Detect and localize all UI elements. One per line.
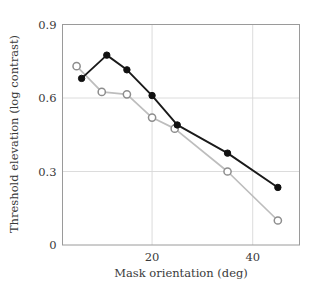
x-axis-title: Mask orientation (deg)	[114, 266, 248, 280]
data-point	[124, 67, 130, 73]
data-point	[275, 184, 281, 190]
x-tick-label: 40	[245, 250, 260, 264]
data-point	[224, 168, 231, 175]
y-tick-label: 0.6	[38, 91, 56, 105]
data-point	[123, 91, 130, 98]
data-point	[98, 88, 105, 95]
y-tick-label: 0	[49, 238, 56, 252]
data-point	[274, 217, 281, 224]
threshold-elevation-line-chart: 00.30.60.9 2040 Mask orientation (deg) T…	[0, 0, 316, 288]
data-point	[174, 122, 180, 128]
data-point	[148, 114, 155, 121]
y-axis-title: Threshold elevation (log contrast)	[7, 35, 21, 233]
data-point	[73, 63, 80, 70]
data-point	[78, 75, 84, 81]
data-point	[224, 150, 230, 156]
x-tick-label: 20	[145, 250, 160, 264]
chart-figure: 00.30.60.9 2040 Mask orientation (deg) T…	[0, 0, 316, 288]
data-point	[104, 52, 110, 58]
y-tick-label: 0.3	[38, 165, 56, 179]
y-tick-label: 0.9	[38, 18, 56, 32]
data-point	[149, 92, 155, 98]
